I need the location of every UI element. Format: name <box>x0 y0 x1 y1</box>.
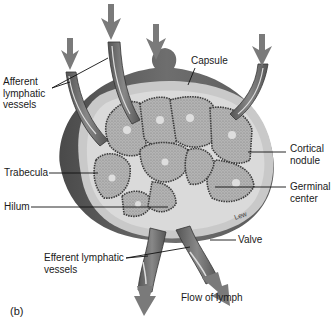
label-efferent-lymphatic-vessels: Efferent lymphatic vessels <box>44 252 124 275</box>
label-cortical-nodule: Cortical nodule <box>290 143 324 166</box>
label-capsule: Capsule <box>191 55 228 67</box>
label-germinal-center: Germinal center <box>290 181 331 204</box>
label-flow-of-lymph: Flow of lymph <box>181 292 243 304</box>
arrow-down-icon <box>61 38 79 70</box>
panel-label: (b) <box>10 306 23 318</box>
arrow-down-icon <box>134 286 156 316</box>
label-valve: Valve <box>238 234 262 246</box>
arrow-down-icon <box>101 4 121 40</box>
label-afferent-lymphatic-vessels: Afferent lymphatic vessels <box>3 76 45 111</box>
label-hilum: Hilum <box>4 201 30 213</box>
label-trabecula: Trabecula <box>4 167 48 179</box>
arrow-down-icon <box>252 34 272 66</box>
